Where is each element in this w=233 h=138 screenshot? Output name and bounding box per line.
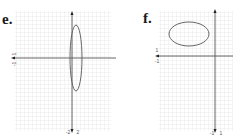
tick-label-e-x-neg: -2 [66, 129, 71, 135]
graphs-canvas: 1 -1 -2 2 1 -1 -1 1 [0, 0, 233, 138]
grid-f [159, 11, 233, 131]
tick-label-f-x-neg: -1 [210, 130, 215, 136]
tick-label-f-y-neg: -1 [155, 58, 160, 64]
panel-label-f: f. [143, 11, 152, 26]
tick-label-e-y-neg: -1 [11, 62, 17, 67]
tick-label-e-y-pos: 1 [11, 52, 17, 55]
graph-f: 1 -1 -1 1 [155, 9, 233, 136]
graph-e: 1 -1 -2 2 [11, 11, 116, 135]
grid-e [15, 11, 111, 131]
tick-label-f-y-pos: 1 [156, 47, 159, 53]
tick-label-e-x-pos: 2 [77, 129, 80, 135]
x-axis-arrow-left-icon [11, 57, 15, 60]
tick-label-f-x-pos: 1 [220, 130, 223, 136]
panel-label-e: e. [2, 12, 12, 27]
